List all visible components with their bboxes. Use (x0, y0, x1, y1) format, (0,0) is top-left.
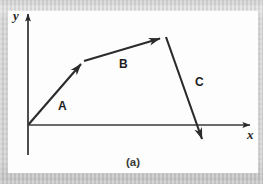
vector-b-label: B (119, 58, 128, 70)
vector-a-label: A (58, 100, 67, 112)
figure-caption: (a) (126, 157, 140, 169)
x-axis-label: x (247, 128, 254, 141)
vector-c-label: C (195, 76, 204, 88)
vector-a-arrow (29, 64, 82, 125)
y-axis-label: y (13, 9, 19, 22)
figure-screenshot: y x A B C (a) (0, 0, 263, 184)
